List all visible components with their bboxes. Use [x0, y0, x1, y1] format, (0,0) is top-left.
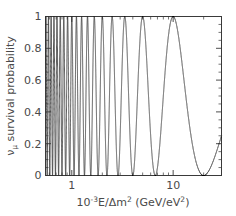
y-label-text: survival probability	[4, 36, 17, 145]
y-tick-label: 0	[35, 169, 42, 182]
y-tick-label: 0.6	[24, 74, 42, 87]
y-tick-label: 1	[35, 10, 42, 23]
x-tick-label: 1	[68, 179, 75, 192]
x-label-units-close: )	[185, 196, 189, 209]
y-tick-label: 0.8	[24, 42, 42, 55]
y-tick-label: 0.4	[24, 106, 42, 119]
y-tick-label: 0.2	[24, 138, 42, 151]
x-label-rest: E/Δm	[98, 196, 127, 209]
oscillation-plot-figure: 110 00.20.40.60.81 10-3E/Δm2 (GeV/eV2) ν…	[0, 0, 236, 216]
x-label-units-open: (GeV/eV	[132, 196, 181, 209]
y-axis-label: νμ survival probability	[4, 36, 19, 156]
x-tick-label: 10	[166, 179, 180, 192]
x-label-mantissa: 10	[77, 196, 91, 209]
plot-canvas: 110 00.20.40.60.81 10-3E/Δm2 (GeV/eV2) ν…	[0, 0, 236, 216]
